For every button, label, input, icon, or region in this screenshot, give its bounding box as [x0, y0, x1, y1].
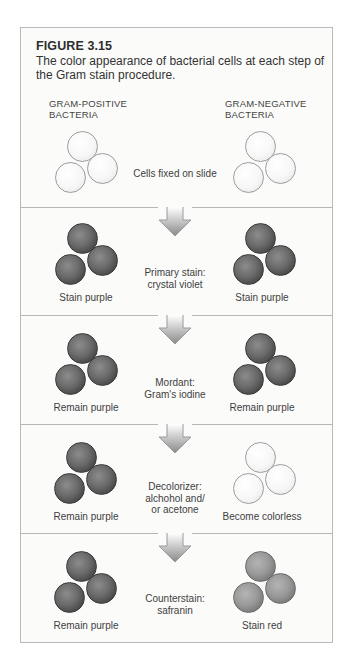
gram-negative-result: Stain purple — [212, 292, 312, 303]
gram-positive-result: Remain purple — [36, 620, 136, 631]
cell-icon — [233, 254, 264, 285]
gram-negative-result: Remain purple — [212, 402, 312, 413]
gram-positive-result: Stain purple — [36, 292, 136, 303]
cell-icon — [86, 464, 117, 495]
step-label-fix: Cells fixed on slide — [128, 168, 222, 180]
cell-icon — [86, 573, 117, 604]
gram-positive-cells-step-4 — [54, 442, 120, 506]
cell-icon — [87, 355, 118, 386]
step-label-line: Mordant: — [128, 377, 222, 389]
step-label-line: Primary stain: — [128, 267, 222, 279]
heading-line: BACTERIA — [49, 109, 127, 120]
down-arrow-icon — [158, 207, 192, 237]
step-label-line: Cells fixed on slide — [128, 168, 222, 180]
gram-positive-cells-step-2 — [55, 223, 121, 287]
gram-negative-cells-step-1 — [233, 131, 299, 195]
cell-icon — [233, 473, 264, 504]
step-label-line: safranin — [128, 605, 222, 617]
heading-line: GRAM-NEGATIVE — [225, 98, 307, 109]
cell-icon — [54, 473, 85, 504]
cell-icon — [55, 364, 86, 395]
cell-icon — [265, 464, 296, 495]
step-label-counterstain: Counterstain: safranin — [128, 593, 222, 616]
step-label-line: Counterstain: — [128, 593, 222, 605]
gram-positive-heading: GRAM-POSITIVE BACTERIA — [49, 98, 127, 120]
down-arrow-icon — [158, 424, 192, 454]
down-arrow-icon — [158, 315, 192, 345]
gram-negative-cells-step-2 — [233, 223, 299, 287]
heading-line: GRAM-POSITIVE — [49, 98, 127, 109]
gram-negative-result: Stain red — [212, 620, 312, 631]
cell-icon — [233, 364, 264, 395]
cell-icon — [55, 254, 86, 285]
down-arrow-icon — [158, 533, 192, 563]
cell-icon — [87, 153, 118, 184]
cell-icon — [265, 355, 296, 386]
gram-negative-result: Become colorless — [212, 511, 312, 522]
figure-number: FIGURE 3.15 — [36, 39, 326, 53]
gram-positive-cells-step-3 — [55, 333, 121, 397]
cell-icon — [265, 245, 296, 276]
cell-icon — [265, 153, 296, 184]
gram-negative-cells-step-4 — [233, 442, 299, 506]
step-label-primary-stain: Primary stain: crystal violet — [128, 267, 222, 290]
cell-icon — [55, 162, 86, 193]
gram-positive-result: Remain purple — [36, 511, 136, 522]
gram-positive-cells-step-5 — [54, 551, 120, 615]
cell-icon — [233, 582, 264, 613]
gram-negative-heading: GRAM-NEGATIVE BACTERIA — [225, 98, 307, 120]
step-label-line: Decolorizer: — [128, 481, 222, 493]
step-label-decolorizer: Decolorizer: alchohol and/ or acetone — [128, 481, 222, 516]
gram-negative-cells-step-5 — [233, 551, 299, 615]
cell-icon — [233, 162, 264, 193]
cell-icon — [265, 573, 296, 604]
cell-icon — [54, 582, 85, 613]
step-label-line: or acetone — [128, 504, 222, 516]
figure-header: FIGURE 3.15 The color appearance of bact… — [36, 39, 326, 82]
step-label-line: alchohol and/ — [128, 493, 222, 505]
gram-negative-cells-step-3 — [233, 333, 299, 397]
step-label-line: Gram's iodine — [128, 389, 222, 401]
gram-positive-result: Remain purple — [36, 402, 136, 413]
step-label-mordant: Mordant: Gram's iodine — [128, 377, 222, 400]
gram-positive-cells-step-1 — [55, 131, 121, 195]
step-label-line: crystal violet — [128, 279, 222, 291]
cell-icon — [87, 245, 118, 276]
heading-line: BACTERIA — [225, 109, 307, 120]
figure-caption: The color appearance of bacterial cells … — [36, 55, 326, 82]
